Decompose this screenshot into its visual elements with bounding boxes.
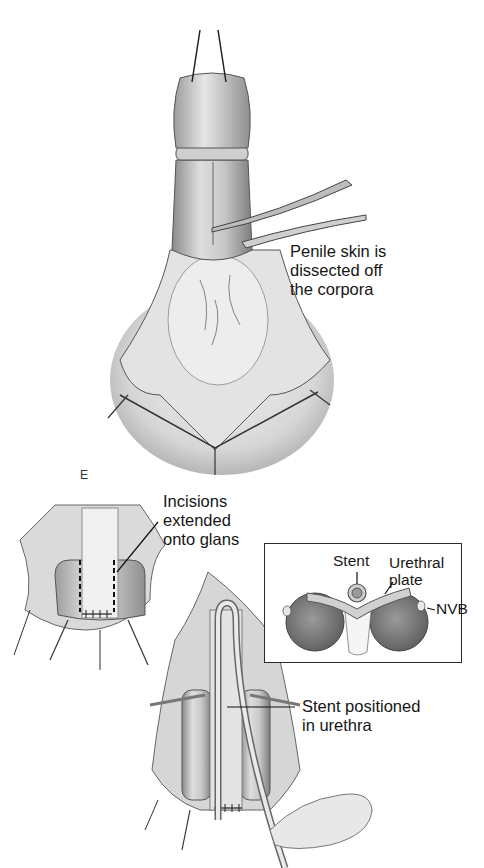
surgical-illustration — [0, 0, 484, 868]
bottom-left-illustration-incisions — [14, 505, 165, 670]
nvb-label: NVB — [436, 600, 468, 617]
skin-dissection-label: Penile skin is dissected off the corpora — [290, 242, 386, 299]
urethral-plate-label: Urethral plate — [389, 554, 444, 588]
stent-label: Stent — [333, 552, 369, 569]
cross-section-inset: Stent Urethral plate NVB — [264, 543, 462, 663]
stent-positioned-label: Stent positioned in urethra — [302, 697, 420, 735]
incisions-label: Incisions extended onto glans — [163, 492, 239, 549]
panel-letter-e: E — [80, 468, 88, 482]
